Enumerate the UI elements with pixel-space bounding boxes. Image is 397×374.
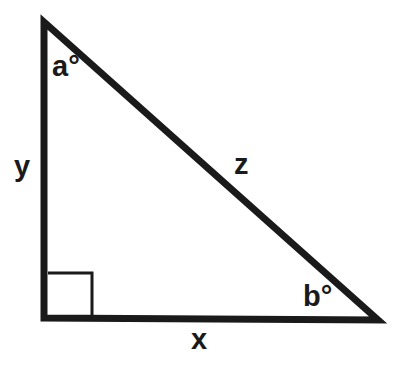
right-triangle-diagram: a° y z b° x <box>0 0 397 374</box>
angle-label-a: a° <box>52 52 80 81</box>
side-label-z: z <box>234 150 249 179</box>
triangle-outline <box>44 22 378 320</box>
side-label-x: x <box>191 325 207 354</box>
side-label-y: y <box>14 152 30 181</box>
angle-label-b: b° <box>303 282 332 311</box>
